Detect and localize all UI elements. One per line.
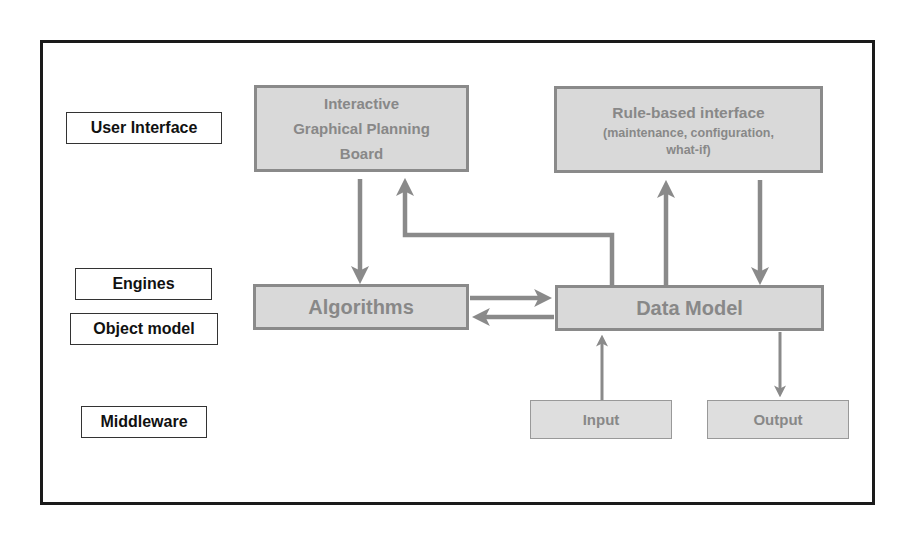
connector-arrows	[0, 0, 921, 534]
arrow-datamodel-to-planning	[405, 186, 612, 285]
